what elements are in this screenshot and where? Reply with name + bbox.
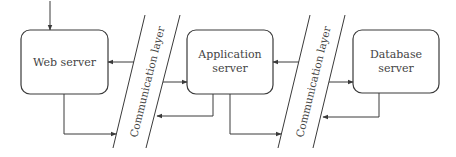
communication-layer-2-label: Communication layer	[293, 24, 332, 139]
database-server-label-line1: Database	[370, 48, 422, 61]
app-to-comm1-arrow	[157, 94, 213, 116]
db-to-comm2-arrow	[323, 93, 379, 117]
database-server-label-line2: server	[378, 62, 414, 75]
web-to-comm1-arrow	[64, 94, 116, 134]
database-server-node: Database server	[353, 30, 439, 93]
app-to-comm2-arrow	[230, 94, 281, 134]
application-server-label-line2: server	[212, 62, 248, 75]
communication-layer-1-label: Communication layer	[127, 24, 166, 139]
application-server-label-line1: Application	[197, 48, 261, 61]
web-server-label: Web server	[33, 56, 97, 69]
web-server-node: Web server	[21, 30, 108, 94]
application-server-node: Application server	[187, 30, 273, 94]
architecture-diagram: Web server Communication layer Applicati…	[0, 0, 456, 157]
